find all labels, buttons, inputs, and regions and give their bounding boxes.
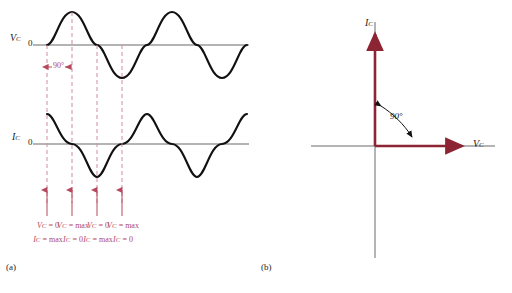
phase-span-label: 90° <box>52 61 65 70</box>
annotation-4-top: VC = max <box>97 219 149 233</box>
ic-axis-label: IC <box>12 131 20 142</box>
vc-zero-label: 0 <box>28 38 33 48</box>
panel-b-group <box>311 22 495 258</box>
phasor-vc-label: VC <box>473 138 484 149</box>
phasor-ic-label: IC <box>365 17 373 28</box>
ic-zero-label: 0 <box>28 137 33 147</box>
phasor-angle-label: 90° <box>390 111 403 121</box>
panel-a-tag: (a) <box>6 262 16 272</box>
panel-b-tag: (b) <box>261 262 272 272</box>
panel-a-group <box>33 12 249 216</box>
phasor-vc-label-sub: C <box>479 141 484 149</box>
annotation-4-bottom: IC = 0 <box>97 233 149 247</box>
figure-root: VC 0 IC 0 90° VC = 0 IC = max VC = max I… <box>0 0 512 293</box>
vc-axis-label: VC <box>10 32 21 43</box>
vc-axis-label-sub: C <box>16 35 21 43</box>
figure-svg <box>0 0 512 293</box>
phasor-ic-label-sub: C <box>368 20 373 28</box>
ic-axis-label-sub: C <box>15 134 20 142</box>
annotation-4-top-rest: = max <box>117 221 139 230</box>
ic-waveform <box>47 114 247 177</box>
annotation-group-4: VC = max IC = 0 <box>97 219 149 247</box>
annotation-4-bot-rest: = 0 <box>120 235 133 244</box>
